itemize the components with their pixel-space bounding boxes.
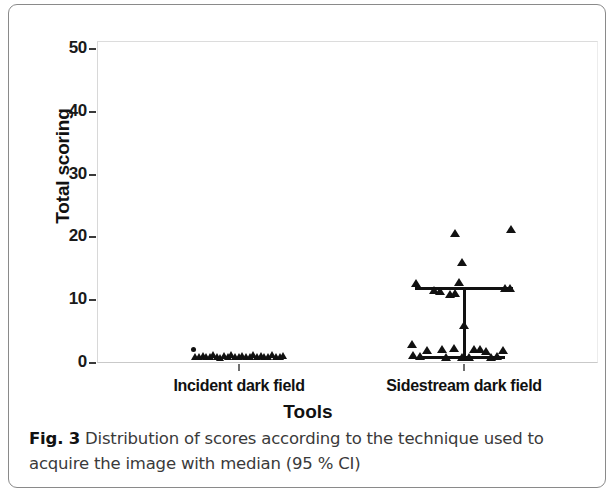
y-tick-mark: [89, 174, 96, 176]
y-tick-label-10: 10: [41, 289, 87, 309]
y-tick-label-50: 50: [41, 38, 87, 58]
data-point-triangle: [506, 225, 516, 233]
figure-caption-text: Distribution of scores according to the …: [29, 429, 544, 473]
plot-area: [97, 41, 598, 363]
data-point-triangle: [450, 289, 460, 297]
data-point-triangle: [449, 344, 459, 352]
median-marker: [459, 321, 469, 329]
x-tick-mark: [238, 364, 240, 371]
data-point-triangle: [450, 229, 460, 237]
data-point-triangle: [279, 352, 287, 359]
y-tick-label-40: 40: [41, 101, 87, 121]
y-tick-label-30: 30: [41, 164, 87, 184]
y-tick-mark: [89, 48, 96, 50]
data-point-dot: [191, 347, 196, 352]
data-point-triangle: [498, 346, 508, 354]
data-point-triangle: [407, 340, 417, 348]
figure-card: Total scoring 01020304050 Incident dark …: [8, 4, 606, 488]
data-point-triangle: [457, 258, 467, 266]
x-axis-title: Tools: [9, 401, 606, 423]
x-tick-label-1: Sidestream dark field: [344, 377, 584, 395]
y-tick-mark: [89, 111, 96, 113]
x-tick-label-0: Incident dark field: [119, 377, 359, 395]
chart-plot-region: Total scoring 01020304050 Incident dark …: [9, 5, 606, 420]
data-point-triangle: [411, 279, 421, 287]
data-point-triangle: [422, 346, 432, 354]
y-tick-mark: [89, 362, 96, 364]
x-tick-mark: [463, 364, 465, 371]
data-point-triangle: [505, 284, 515, 292]
y-tick-mark: [89, 236, 96, 238]
figure-caption-label: Fig. 3: [29, 429, 80, 448]
data-point-triangle: [464, 353, 474, 361]
figure-caption: Fig. 3 Distribution of scores according …: [29, 426, 589, 476]
y-tick-mark: [89, 299, 96, 301]
data-point-triangle: [435, 287, 445, 295]
data-point-triangle: [454, 278, 464, 286]
y-tick-label-20: 20: [41, 226, 87, 246]
y-tick-label-0: 0: [41, 352, 87, 372]
data-point-triangle: [441, 353, 451, 361]
